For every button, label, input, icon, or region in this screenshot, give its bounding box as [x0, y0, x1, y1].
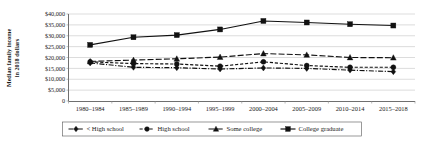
data-point-marker-square	[131, 35, 136, 40]
data-point-marker-circle	[304, 63, 309, 68]
x-axis-tick-label: 2015–2018	[379, 105, 408, 112]
legend-label: College graduate	[299, 125, 344, 132]
x-axis-tick-label: 1990–1994	[162, 105, 192, 112]
data-point-marker-circle	[348, 65, 353, 70]
y-axis-tick-label: 0	[62, 97, 65, 104]
legend-label: High school	[158, 125, 190, 132]
legend-label: < High school	[87, 125, 125, 132]
y-axis-tick-label: $15,000	[45, 65, 65, 72]
data-point-marker-circle	[391, 65, 396, 70]
y-axis-tick-label: $25,000	[45, 43, 65, 50]
data-point-marker-square	[218, 27, 223, 32]
y-axis-tick-label: $20,000	[45, 54, 65, 61]
data-point-marker-circle	[174, 62, 179, 67]
y-axis-title-line2: in 2018 dollars	[14, 38, 20, 77]
x-axis-tick-label: 1985–1989	[119, 105, 148, 112]
y-axis-title-line1: Median family income	[6, 29, 12, 88]
line-chart: Median family income in 2018 dollars 0$5…	[0, 0, 424, 144]
data-point-marker-circle	[145, 127, 150, 132]
x-axis-tick-label: 2010–2014	[336, 105, 366, 112]
data-point-marker-square	[286, 127, 291, 132]
y-axis-tick-label: $10,000	[45, 75, 65, 82]
y-axis-tick-label: $30,000	[45, 32, 65, 39]
data-point-marker-square	[348, 22, 353, 27]
chart-container: Median family income in 2018 dollars 0$5…	[0, 0, 424, 144]
data-point-marker-circle	[218, 64, 223, 69]
data-point-marker-square	[88, 42, 93, 47]
data-point-marker-square	[304, 20, 309, 25]
data-point-marker-square	[261, 18, 266, 23]
x-axis-tick-label: 1980–1984	[76, 105, 106, 112]
data-point-marker-square	[391, 23, 396, 28]
data-point-marker-diamond	[261, 65, 266, 71]
x-axis-tick-labels: 1980–19841985–19891990–19941995–19992000…	[76, 105, 408, 112]
y-axis-tick-label: $5,000	[48, 86, 65, 93]
y-axis-tick-labels: 0$5,000$10,000$15,000$20,000$25,000$30,0…	[45, 10, 65, 104]
data-point-marker-circle	[261, 59, 266, 64]
series-some-college	[87, 51, 396, 64]
x-axis-tick-label: 2000–2004	[249, 105, 279, 112]
y-axis-tick-label: $35,000	[45, 21, 65, 28]
data-point-marker-square	[174, 33, 179, 38]
x-axis-tick-label: 2005–2009	[292, 105, 321, 112]
series-college-graduate	[88, 18, 396, 47]
legend-label: Some college	[227, 125, 263, 132]
y-axis-title: Median family income in 2018 dollars	[6, 29, 20, 88]
y-axis-tick-label: $40,000	[45, 10, 65, 17]
x-axis-tick-label: 1995–1999	[206, 105, 235, 112]
chart-legend: < High schoolHigh schoolSome collegeColl…	[63, 122, 362, 136]
